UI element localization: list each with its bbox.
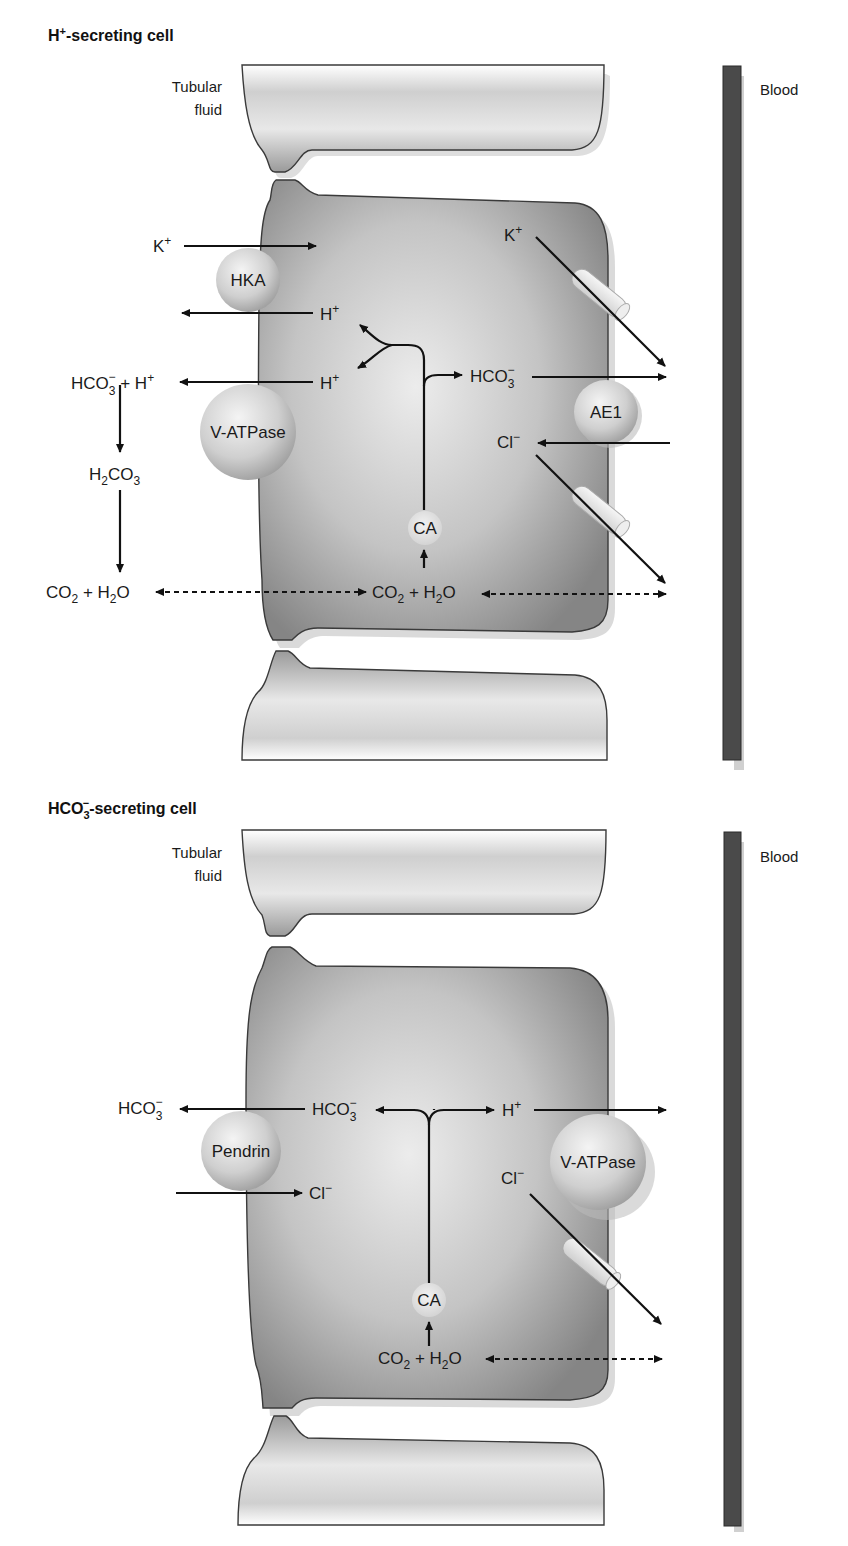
lumen-co2-h2o-label: CO2 + H2O <box>46 583 130 606</box>
blood-label: Blood <box>760 81 798 98</box>
blood-label: Blood <box>760 848 798 865</box>
panel-title: HCO3−-secreting cell <box>48 797 197 821</box>
tubular-fluid-label: Tubular <box>172 844 222 861</box>
lumen-hco3-plus-h-label: HCO3− + H+ <box>71 370 154 398</box>
v-atpase-label: V-ATPase <box>560 1153 635 1172</box>
tubular-fluid-label: Tubular <box>172 78 222 95</box>
neighbor-cell-bottom <box>238 1416 604 1525</box>
blood-vessel <box>724 832 741 1526</box>
panel-h-secreting: H+-secreting cell Tubular fluid Blood HK… <box>46 25 798 770</box>
blood-vessel <box>723 66 741 760</box>
lumen-hco3-label: HCO3− <box>118 1095 163 1123</box>
tubular-fluid-label-line2: fluid <box>194 867 222 884</box>
k-apical-label: K+ <box>153 234 171 256</box>
neighbor-cell-top <box>242 830 606 936</box>
panel-hco3-secreting: HCO3−-secreting cell Tubular fluid Blood… <box>48 797 798 1532</box>
tubular-fluid-label-line2: fluid <box>194 101 222 118</box>
ca-label: CA <box>413 519 437 538</box>
v-atpase-label: V-ATPase <box>210 423 285 442</box>
h-secreting-cell <box>258 180 608 640</box>
h2co3-label: H2CO3 <box>89 465 140 488</box>
pendrin-label: Pendrin <box>212 1142 271 1161</box>
neighbor-cell-bottom <box>242 651 607 760</box>
panel-title: H+-secreting cell <box>48 25 174 44</box>
ae1-label: AE1 <box>590 403 622 422</box>
diagram-canvas: H+-secreting cell Tubular fluid Blood HK… <box>0 0 848 1546</box>
hka-label: HKA <box>231 271 267 290</box>
ca-label: CA <box>417 1291 441 1310</box>
